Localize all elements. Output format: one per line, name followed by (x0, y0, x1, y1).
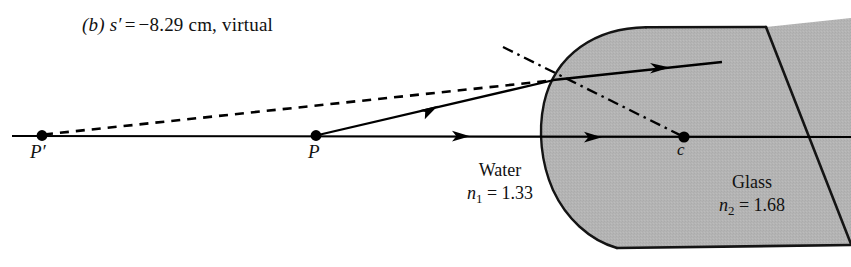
figure-caption: (b) s′=−8.29 cm, virtual (82, 14, 273, 36)
refraction-diagram-figure: (b) s′=−8.29 cm, virtual P′ P c Water n1… (0, 0, 851, 267)
caption-symbol: s′ (110, 14, 122, 35)
water-index-value: 1.33 (502, 183, 534, 203)
glass-index-value: 1.68 (754, 195, 786, 215)
image-point-dot (37, 130, 48, 141)
label-image-point: P′ (30, 141, 46, 163)
glass-index-symbol: n (719, 195, 728, 215)
water-name: Water (440, 160, 560, 181)
caption-value: −8.29 cm, virtual (139, 14, 273, 35)
caption-equals: = (122, 14, 139, 35)
object-point-dot (311, 130, 322, 141)
incident-ray-arrowhead (420, 106, 439, 119)
water-index-equals: = (487, 183, 497, 203)
incident-ray (316, 80, 554, 136)
water-index-subscript: 1 (476, 191, 482, 206)
glass-index-equals: = (739, 195, 749, 215)
label-medium-glass: Glass n2 = 1.68 (692, 172, 812, 218)
diagram-canvas (0, 0, 851, 267)
glass-index-subscript: 2 (728, 203, 734, 218)
label-medium-water: Water n1 = 1.33 (440, 160, 560, 206)
label-object-point: P (308, 141, 320, 163)
label-center-of-curvature: c (677, 140, 685, 160)
glass-name: Glass (692, 172, 812, 193)
caption-part-letter: (b) (82, 14, 105, 35)
optic-axis-line (12, 136, 851, 137)
water-index-symbol: n (467, 183, 476, 203)
glass-refractive-index: n2 = 1.68 (692, 195, 812, 218)
water-refractive-index: n1 = 1.33 (440, 183, 560, 206)
virtual-ray-dashed-line (44, 81, 552, 135)
